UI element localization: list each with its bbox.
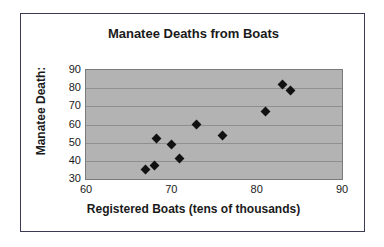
data-point [218, 130, 228, 140]
data-point [260, 107, 270, 117]
y-tick-label: 60 [54, 119, 81, 130]
data-point [141, 165, 151, 175]
y-tick-label: 90 [54, 64, 81, 75]
y-tick-label: 50 [54, 137, 81, 148]
y-axis-label-container: Manatee Death: [29, 54, 53, 176]
chart-figure-frame: Manatee Deaths from Boats Manatee Death:… [20, 13, 365, 232]
gridline [86, 125, 342, 126]
x-tick-label: 80 [242, 183, 272, 195]
y-tick-label: 80 [54, 82, 81, 93]
data-point [166, 140, 176, 150]
data-point [151, 133, 161, 143]
gridline [86, 88, 342, 89]
y-tick-label: 70 [54, 100, 81, 111]
plot-area [85, 69, 343, 180]
y-axis-tick-labels: 30405060708090 [54, 62, 81, 178]
x-tick-label: 60 [71, 183, 101, 195]
x-axis-label: Registered Boats (tens of thousands) [21, 202, 366, 216]
data-point [149, 160, 159, 170]
x-axis-tick-labels: 60708090 [85, 183, 343, 197]
gridline [86, 143, 342, 144]
x-tick-label: 90 [327, 183, 357, 195]
x-tick-label: 70 [156, 183, 186, 195]
y-axis-label: Manatee Death: [34, 55, 48, 167]
data-point [192, 120, 202, 130]
y-tick-label: 40 [54, 155, 81, 166]
chart-title: Manatee Deaths from Boats [21, 26, 366, 41]
gridline [86, 106, 342, 107]
gridline [86, 161, 342, 162]
